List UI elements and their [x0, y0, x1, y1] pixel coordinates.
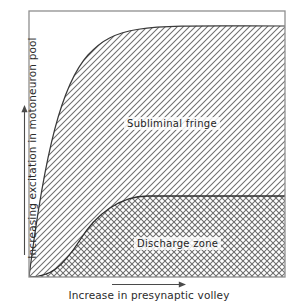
figure-canvas [0, 0, 298, 304]
region-label-discharge-zone: Discharge zone [134, 238, 221, 249]
right-arrow-icon [112, 281, 186, 287]
y-axis-label: Increasing excitation in motoneuron pool [26, 10, 38, 286]
region-label-subliminal-fringe-text: Subliminal fringe [124, 117, 220, 130]
region-label-subliminal-fringe: Subliminal fringe [124, 118, 220, 129]
x-axis-label: Increase in presynaptic volley [0, 289, 298, 301]
region-label-discharge-zone-text: Discharge zone [134, 237, 221, 250]
